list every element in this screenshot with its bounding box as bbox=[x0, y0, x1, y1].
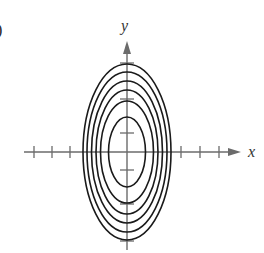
x-axis-arrow-icon bbox=[228, 148, 241, 156]
x-axis-label: x bbox=[247, 143, 255, 160]
contour-figure: ) x y bbox=[0, 0, 264, 253]
y-axis: y bbox=[119, 17, 134, 250]
y-axis-label: y bbox=[119, 17, 129, 35]
y-axis-arrow-icon bbox=[123, 41, 131, 54]
panel-label: ) bbox=[0, 21, 2, 39]
x-axis: x bbox=[24, 143, 255, 160]
